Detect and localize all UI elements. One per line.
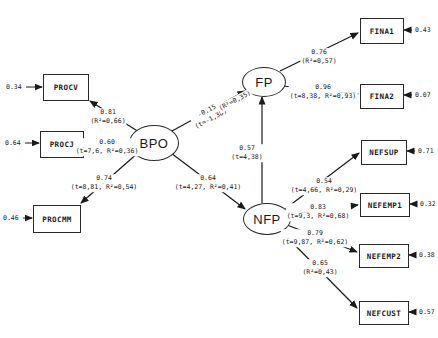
- error-nefsup: 0.71: [418, 147, 434, 155]
- path-label-bpo-procj: 0.60 (t=7,6, R²=0,36): [75, 138, 140, 156]
- error-procv: 0.34: [6, 83, 22, 91]
- path-label-bpo-nfp: 0.64 (t=4,27, R²=0,41): [174, 174, 243, 192]
- stat: (t=8,38, R²=0,93): [289, 92, 358, 101]
- coef: 0.81: [89, 108, 126, 117]
- coef: 0.74: [70, 174, 139, 183]
- error-nefcust: 0.57: [419, 308, 435, 316]
- coef: 0.54: [290, 177, 359, 186]
- path-label-bpo-procv: 0.81 (R²=0,66): [89, 108, 126, 126]
- stat: (t=4,66, R²=0,29): [290, 186, 359, 195]
- stat: (R²=0,66): [89, 117, 126, 126]
- stat: (t=4,38): [230, 153, 263, 162]
- path-label-fp-fina2: 0.96 (t=8,38, R²=0,93): [289, 83, 358, 101]
- path-label-nfp-nefemp2: 0.79 (t=9,87, R²=0,62): [281, 229, 350, 247]
- stat: (t=4,27, R²=0,41): [174, 183, 243, 192]
- path-label-nfp-fp: 0.57 (t=4,38): [230, 144, 263, 162]
- coef: 0.60: [75, 138, 140, 147]
- error-nefemp2: 0.38: [419, 251, 435, 259]
- node-procv: PROCV: [43, 74, 89, 101]
- node-procmm: PROCMM: [33, 205, 81, 233]
- coef: 0.79: [281, 229, 350, 238]
- coef: 0.76: [300, 48, 337, 57]
- stat: (t=9,3, R²=0,68): [286, 212, 351, 221]
- node-nefcust: NEFCUST: [359, 301, 409, 325]
- sem-path-diagram: PROCV PROCJ PROCMM FINA1 FINA2 NEFSUP NE…: [0, 0, 438, 338]
- error-nefemp1: 0.32: [420, 200, 436, 208]
- node-fina2: FINA2: [360, 84, 404, 109]
- coef: 0.83: [286, 203, 351, 212]
- node-fina1: FINA1: [360, 18, 404, 44]
- path-label-fp-fina1: 0.76 (R²=0,57): [300, 48, 337, 66]
- node-nefsup: NEFSUP: [361, 140, 407, 165]
- error-fina2: 0.07: [415, 91, 431, 99]
- node-nefemp1: NEFEMP1: [360, 193, 410, 217]
- stat: (t=9,87, R²=0,62): [281, 238, 350, 247]
- path-label-nfp-nefcust: 0.65 (R²=0,43): [301, 259, 338, 277]
- coef: 0.64: [174, 174, 243, 183]
- error-procj: 0.64: [5, 139, 21, 147]
- stat: (t=8,81, R²=0,54): [70, 183, 139, 192]
- node-nefemp2: NEFEMP2: [359, 244, 409, 268]
- diagram-arrows: [0, 0, 438, 338]
- coef: 0.57: [230, 144, 263, 153]
- stat: (R²=0,43): [301, 268, 338, 277]
- coef: 0.96: [289, 83, 358, 92]
- coef: 0.65: [301, 259, 338, 268]
- path-label-bpo-procmm: 0.74 (t=8,81, R²=0,54): [70, 174, 139, 192]
- error-procmm: 0.46: [3, 214, 19, 222]
- error-fina1: 0.43: [415, 26, 431, 34]
- stat: (R²=0,57): [300, 57, 337, 66]
- path-label-nfp-nefsup: 0.54 (t=4,66, R²=0,29): [290, 177, 359, 195]
- path-label-nfp-nefemp1: 0.83 (t=9,3, R²=0,68): [286, 203, 351, 221]
- stat: (t=7,6, R²=0,36): [75, 147, 140, 156]
